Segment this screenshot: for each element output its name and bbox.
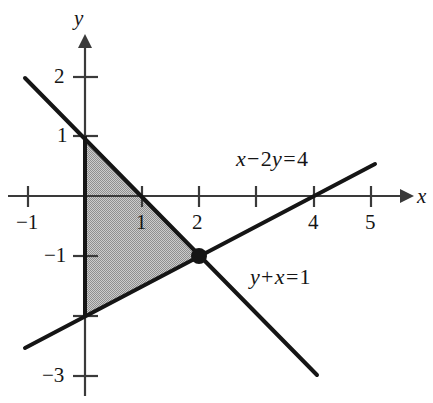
eq2-term-x: x: [275, 264, 285, 289]
y-axis-label: y: [74, 8, 83, 29]
plot-canvas: [0, 0, 433, 403]
y-axis-arrow: [78, 34, 92, 48]
y-tick-label-2: 2: [54, 66, 65, 87]
x-tick-label-4: 4: [308, 212, 319, 233]
equation-label-x-minus-2y-equals-4: x−2y=4: [236, 148, 308, 170]
eq2-plus-sign: +: [260, 264, 275, 289]
eq1-coefficient: 2: [261, 146, 272, 171]
equation-label-y-plus-x-equals-1: y+x=1: [250, 266, 311, 288]
y-tick-label--3: −3: [42, 365, 64, 386]
eq1-rhs: 4: [297, 146, 308, 171]
line-y-plus-x-equals-1: [25, 78, 317, 375]
eq2-term-y: y: [250, 264, 260, 289]
y-tick-label--1: −1: [44, 245, 66, 266]
eq2-rhs: 1: [300, 264, 311, 289]
eq2-equals-sign: =: [285, 264, 300, 289]
x-tick-label-2: 2: [192, 212, 203, 233]
graph-figure: y x −1 1 2 4 5 2 1 −1 −3 x−2y=4 y+x=1: [0, 0, 433, 403]
eq1-minus-sign: −: [246, 146, 261, 171]
x-axis-label: x: [417, 186, 426, 207]
eq1-equals-sign: =: [282, 146, 297, 171]
y-tick-label-1: 1: [57, 125, 68, 146]
x-tick-label-1: 1: [136, 212, 147, 233]
eq1-term-y: y: [272, 146, 282, 171]
x-tick-label-5: 5: [365, 212, 376, 233]
x-axis-arrow: [400, 189, 414, 203]
eq1-term-x: x: [236, 146, 246, 171]
x-tick-label--1: −1: [16, 212, 38, 233]
intersection-point-marker: [191, 248, 207, 264]
